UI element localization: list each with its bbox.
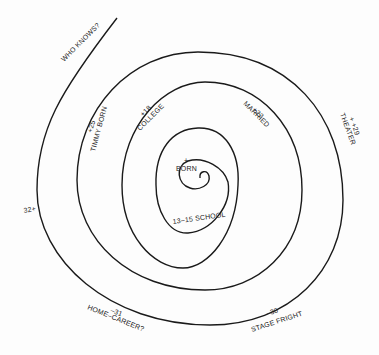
- label-college: COLLEGE: [136, 102, 165, 131]
- label-married: MARRIED: [242, 100, 271, 129]
- label-born: BORN: [176, 165, 197, 172]
- label-born-marker: +: [184, 157, 188, 164]
- label-group: +BORN13–15 SCHOOL+18COLLEGE+22MARRIED+25…: [23, 21, 361, 333]
- label-age32: 32+: [23, 205, 37, 214]
- label-stage-age: –30: [265, 306, 279, 316]
- label-who: WHO KNOWS?: [60, 21, 101, 62]
- label-school: 13–15 SCHOOL: [172, 211, 226, 225]
- spiral-canvas: +BORN13–15 SCHOOL+18COLLEGE+22MARRIED+25…: [0, 0, 379, 355]
- life-spiral-diagram: +BORN13–15 SCHOOL+18COLLEGE+22MARRIED+25…: [0, 0, 379, 355]
